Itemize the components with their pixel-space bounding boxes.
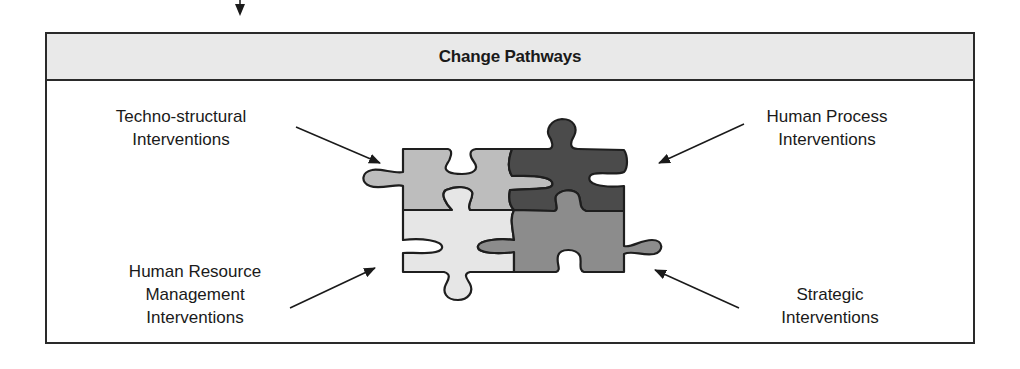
arrow-strategic	[655, 270, 739, 308]
label-hrm: Human Resource Management Interventions	[110, 260, 280, 329]
arrow-techno-structural	[296, 127, 380, 163]
label-strategic: Strategic Interventions	[760, 283, 900, 329]
label-techno-structural: Techno-structural Interventions	[106, 105, 256, 151]
arrow-hrm	[290, 268, 375, 308]
label-human-process: Human Process Interventions	[752, 105, 902, 151]
arrow-human-process	[659, 124, 744, 163]
